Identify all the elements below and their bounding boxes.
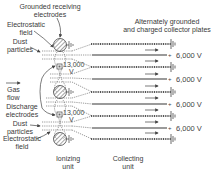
label-line: unit: [50, 163, 86, 171]
label-line: Collecting: [106, 155, 150, 163]
label-line: electrodes: [10, 11, 90, 19]
label-electrostatic-field-top: Electrostatic field: [4, 21, 48, 37]
discharge-voltage-top: 13,000 V: [63, 61, 84, 75]
label-line: Ionizing: [50, 155, 86, 163]
label-dust-particles-top: Dust particles: [2, 38, 38, 54]
plate-voltage-3: 6,000 V: [176, 100, 202, 109]
label-line: Dust: [2, 120, 38, 128]
voltage-value: 13,000: [63, 109, 84, 116]
plate-voltage-1: 6,000 V: [176, 51, 202, 60]
label-line: field: [4, 29, 48, 37]
svg-text:+: +: [168, 52, 172, 58]
label-line: Gas: [7, 86, 20, 94]
label-line: unit: [106, 163, 150, 171]
voltage-value: 13,000: [63, 61, 84, 68]
label-collecting-unit: Collecting unit: [106, 155, 150, 171]
label-grounded-receiving-electrodes: Grounded receiving electrodes: [10, 3, 90, 19]
discharge-voltage-bottom: 13,000 V: [63, 109, 84, 123]
label-line: flow: [7, 94, 20, 102]
ground-symbols-plates: [171, 39, 175, 144]
label-line: electrodes: [2, 111, 42, 119]
svg-text:+: +: [168, 125, 172, 131]
voltage-unit: V: [63, 68, 84, 75]
grounded-collector-plates: [91, 44, 171, 139]
label-line: and charged collector plates: [120, 26, 214, 34]
plate-voltage-4: 6,000 V: [176, 124, 202, 133]
label-line: Alternately grounded: [120, 18, 214, 26]
label-discharge-electrodes: Discharge electrodes: [2, 103, 42, 119]
label-line: Dust: [2, 38, 38, 46]
label-dust-particles-bottom: Dust particles: [2, 120, 38, 136]
label-collector-plates: Alternately grounded and charged collect…: [120, 18, 214, 34]
svg-text:+: +: [168, 76, 172, 82]
label-electrostatic-field-bottom: Electrostatic field: [2, 135, 42, 151]
label-line: field: [2, 143, 42, 151]
voltage-unit: V: [63, 116, 84, 123]
label-line: Discharge: [2, 103, 42, 111]
particle-paths: [42, 44, 92, 139]
label-line: Electrostatic: [4, 21, 48, 29]
label-line: Grounded receiving: [10, 3, 90, 11]
plate-voltage-2: 6,000 V: [176, 75, 202, 84]
label-ionizing-unit: Ionizing unit: [50, 155, 86, 171]
label-gas-flow: Gas flow: [7, 86, 20, 102]
svg-text:+: +: [168, 101, 172, 107]
grounded-receiving-electrodes: [54, 39, 74, 146]
label-line: Electrostatic: [2, 135, 42, 143]
label-line: particles: [2, 46, 38, 54]
